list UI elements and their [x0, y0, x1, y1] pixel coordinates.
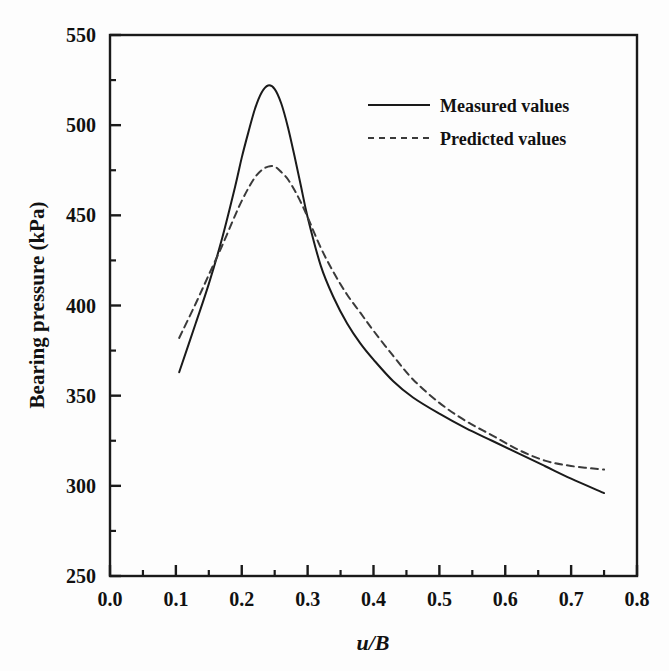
x-tick-label: 0.4: [361, 588, 386, 610]
x-tick-label: 0.2: [229, 588, 254, 610]
y-tick-label: 550: [66, 24, 96, 46]
y-tick-label: 450: [66, 204, 96, 226]
x-tick-label: 0.0: [98, 588, 123, 610]
figure-container: 250300350400450500550 0.00.10.20.30.40.5…: [0, 0, 669, 671]
x-tick-label: 0.1: [163, 588, 188, 610]
x-tick-label: 0.8: [625, 588, 650, 610]
x-tick-label: 0.6: [493, 588, 518, 610]
y-tick-label: 400: [66, 295, 96, 317]
y-tick-label: 500: [66, 114, 96, 136]
y-tick-label: 350: [66, 385, 96, 407]
bearing-pressure-chart: 250300350400450500550 0.00.10.20.30.40.5…: [0, 0, 669, 671]
legend-label-1: Measured values: [440, 96, 569, 116]
x-axis-tick-labels: 0.00.10.20.30.40.50.60.70.8: [98, 588, 650, 610]
y-tick-label: 300: [66, 475, 96, 497]
legend-label-2: Predicted values: [440, 129, 566, 149]
x-tick-label: 0.7: [559, 588, 584, 610]
y-axis-title: Bearing pressure (kPa): [25, 202, 49, 409]
x-tick-label: 0.3: [295, 588, 320, 610]
y-tick-label: 250: [66, 565, 96, 587]
x-tick-label: 0.5: [427, 588, 452, 610]
x-axis-title: u/B: [356, 630, 389, 655]
